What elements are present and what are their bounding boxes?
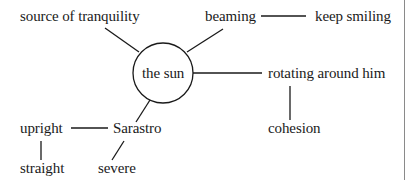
node-sarastro: Sarastro — [113, 121, 161, 136]
right-border — [404, 0, 405, 180]
edge-sarastro-severe — [112, 141, 124, 160]
concept-map: source of tranquility beaming keep smili… — [0, 0, 407, 192]
node-source-of-tranquility: source of tranquility — [20, 9, 140, 24]
edge-sun-beaming — [187, 29, 223, 52]
node-cohesion: cohesion — [268, 121, 321, 136]
node-beaming: beaming — [205, 9, 256, 24]
node-straight: straight — [20, 161, 64, 176]
node-rotating-around-him: rotating around him — [268, 66, 385, 81]
node-upright: upright — [20, 121, 63, 136]
edge-sun-tranquility — [105, 28, 139, 52]
node-the-sun: the sun — [142, 66, 184, 81]
node-severe: severe — [98, 161, 136, 176]
edge-sun-sarastro — [136, 100, 150, 122]
node-keep-smiling: keep smiling — [315, 9, 391, 24]
